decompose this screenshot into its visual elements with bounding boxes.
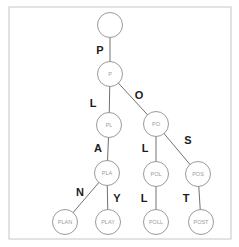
node-label-pol: POL xyxy=(150,171,161,177)
edge-label-n: N xyxy=(76,186,84,198)
node-label-po: PO xyxy=(152,121,161,127)
node-po: PO xyxy=(144,112,169,137)
node-label-pla: PLA xyxy=(102,170,113,176)
edge-label-y: Y xyxy=(113,192,121,204)
node-pol: POL xyxy=(144,162,169,187)
edge-label-t: T xyxy=(183,192,190,204)
edge-label-a: A xyxy=(94,142,102,154)
node-pos: POS xyxy=(186,162,211,187)
node-label-poll: POLL xyxy=(149,219,163,225)
node-label-p: P xyxy=(108,71,112,77)
node-circle-root xyxy=(98,13,123,38)
edge-label-l3: L xyxy=(141,192,148,204)
trie-diagram: P L O A L S N Y L T P PL PO PLA xyxy=(0,0,239,247)
trie-diagram-figure: P L O A L S N Y L T P PL PO PLA xyxy=(0,0,239,247)
edge-label-l1: L xyxy=(90,97,97,109)
node-root xyxy=(98,13,123,38)
node-pl: PL xyxy=(97,113,122,138)
node-plan: PLAN xyxy=(53,210,78,235)
node-play: PLAY xyxy=(96,210,121,235)
edge-label-s: S xyxy=(184,134,191,146)
node-poll: POLL xyxy=(144,210,169,235)
node-pla: PLA xyxy=(95,161,120,186)
node-label-post: POST xyxy=(194,219,210,225)
node-post: POST xyxy=(189,210,214,235)
node-label-plan: PLAN xyxy=(58,219,72,225)
node-p: P xyxy=(98,62,123,87)
node-label-pos: POS xyxy=(192,171,204,177)
node-label-play: PLAY xyxy=(101,219,115,225)
edge-label-p: P xyxy=(96,44,103,56)
edge-label-l2: L xyxy=(142,142,149,154)
edge-label-o: O xyxy=(135,89,144,101)
node-label-pl: PL xyxy=(106,122,113,128)
